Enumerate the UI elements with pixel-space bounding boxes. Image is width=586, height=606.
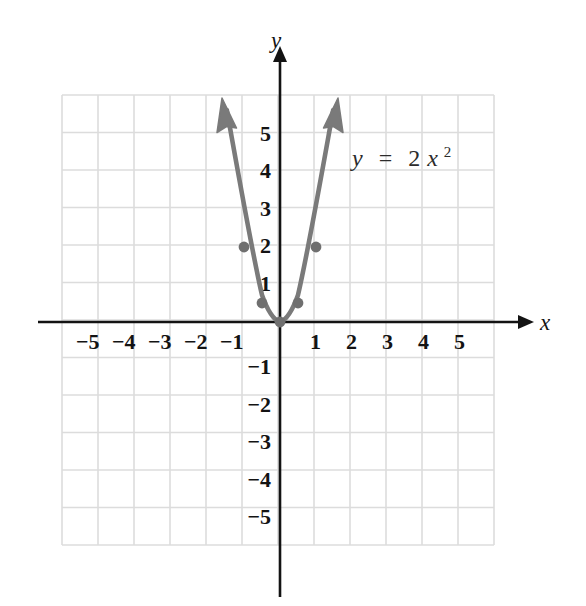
y-tick-label: 2 bbox=[260, 233, 271, 258]
data-point bbox=[257, 298, 268, 309]
x-tick-label: −3 bbox=[148, 329, 172, 354]
y-tick-labels: 5 4 3 2 1 −1 −2 −3 −4 −5 bbox=[247, 121, 271, 529]
axes bbox=[38, 46, 534, 597]
y-tick-label: −3 bbox=[247, 429, 271, 454]
x-axis-arrowhead bbox=[518, 315, 534, 329]
data-point bbox=[293, 298, 304, 309]
y-tick-label: −2 bbox=[247, 392, 271, 417]
x-axis-label: x bbox=[539, 310, 551, 335]
equation-operator: = bbox=[379, 145, 393, 171]
svg-text:y = 2: y = 2 x 2 bbox=[350, 144, 451, 171]
curve-arrowhead-right bbox=[324, 98, 344, 133]
y-tick-label: 4 bbox=[260, 158, 271, 183]
x-tick-label: −5 bbox=[76, 329, 100, 354]
graph-figure: x y −5 −4 −3 −2 −1 1 2 3 4 5 5 4 3 2 1 −… bbox=[0, 0, 586, 606]
equation-variable: x bbox=[426, 145, 438, 171]
curve-arrowhead-left bbox=[217, 98, 237, 133]
equation-lhs: y bbox=[350, 145, 363, 171]
y-tick-label: −5 bbox=[247, 504, 271, 529]
x-tick-label: 5 bbox=[454, 329, 465, 354]
y-tick-label: 5 bbox=[260, 121, 271, 146]
equation-exponent: 2 bbox=[444, 144, 452, 160]
x-tick-label: 3 bbox=[382, 329, 393, 354]
x-tick-label: −4 bbox=[112, 329, 136, 354]
x-tick-label: −2 bbox=[184, 329, 208, 354]
y-tick-label: −4 bbox=[247, 467, 271, 492]
equation-label: y = 2 x 2 bbox=[350, 144, 451, 171]
x-tick-label: 2 bbox=[346, 329, 357, 354]
x-tick-labels: −5 −4 −3 −2 −1 1 2 3 4 5 bbox=[76, 329, 465, 354]
x-tick-label: −1 bbox=[220, 329, 244, 354]
coordinate-plane-svg: x y −5 −4 −3 −2 −1 1 2 3 4 5 5 4 3 2 1 −… bbox=[0, 0, 586, 606]
equation-coefficient: 2 bbox=[408, 145, 420, 171]
y-tick-label: −1 bbox=[247, 354, 271, 379]
data-point bbox=[275, 317, 286, 328]
y-tick-label: 3 bbox=[260, 196, 271, 221]
data-point bbox=[311, 242, 322, 253]
data-point bbox=[239, 242, 250, 253]
x-tick-label: 1 bbox=[310, 329, 321, 354]
y-axis-label: y bbox=[269, 28, 282, 53]
x-tick-label: 4 bbox=[418, 329, 429, 354]
